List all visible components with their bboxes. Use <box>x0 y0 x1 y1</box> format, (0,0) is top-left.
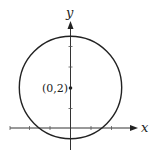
y-axis-label: y <box>65 5 74 20</box>
x-axis-label: x <box>141 120 149 135</box>
y-axis-arrow-icon <box>68 21 74 29</box>
center-label: (0,2) <box>42 82 68 95</box>
y-axis <box>68 21 74 150</box>
x-axis-arrow-icon <box>130 125 138 131</box>
x-axis <box>10 125 138 131</box>
coordinate-diagram: (0,2) y x <box>0 0 155 160</box>
center-point <box>69 86 73 90</box>
